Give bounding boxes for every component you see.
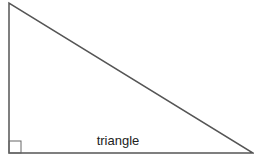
triangle-diagram: triangle xyxy=(0,0,254,168)
right-angle-marker xyxy=(9,141,21,153)
triangle-shape xyxy=(9,3,253,153)
triangle-label: triangle xyxy=(97,133,140,148)
